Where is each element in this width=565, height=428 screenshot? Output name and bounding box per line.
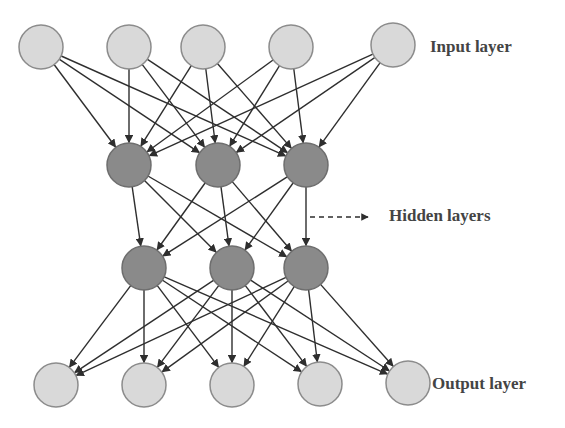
output-layer-label: Output layer bbox=[432, 374, 526, 394]
input-layer-label: Input layer bbox=[430, 37, 512, 57]
input-node-5 bbox=[371, 23, 415, 67]
connection-arrow bbox=[309, 289, 318, 362]
connection-arrow bbox=[320, 284, 393, 367]
connection-arrow bbox=[144, 180, 216, 252]
input-node-3 bbox=[181, 25, 225, 69]
connection-arrow bbox=[146, 59, 287, 153]
connections bbox=[53, 54, 393, 376]
connection-arrow bbox=[157, 182, 206, 250]
hidden-2-node-2 bbox=[210, 246, 254, 290]
hidden-layers-label: Hidden layers bbox=[389, 206, 491, 226]
hidden-2-node-1 bbox=[122, 246, 166, 290]
hidden-1-node-1 bbox=[107, 143, 151, 187]
connection-arrow bbox=[232, 181, 292, 251]
input-node-1 bbox=[19, 25, 63, 69]
output-node-1 bbox=[34, 363, 78, 407]
output-node-4 bbox=[298, 362, 342, 406]
hidden-1-node-2 bbox=[196, 143, 240, 187]
connection-arrow bbox=[141, 65, 192, 146]
connection-arrow bbox=[76, 277, 287, 376]
output-node-2 bbox=[122, 363, 166, 407]
connection-arrow bbox=[244, 286, 295, 366]
output-node-3 bbox=[210, 363, 254, 407]
hidden-1-node-3 bbox=[284, 143, 328, 187]
output-node-5 bbox=[386, 361, 430, 405]
input-node-4 bbox=[269, 25, 313, 69]
connection-arrow bbox=[217, 63, 291, 148]
hidden-2-node-3 bbox=[284, 246, 328, 290]
connection-arrow bbox=[230, 65, 280, 146]
input-node-2 bbox=[107, 25, 151, 69]
connection-arrow bbox=[132, 186, 141, 246]
connection-arrow bbox=[245, 182, 294, 250]
connection-arrow bbox=[294, 68, 304, 143]
